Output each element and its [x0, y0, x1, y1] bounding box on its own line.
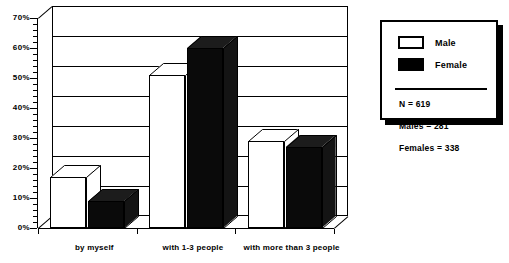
y-axis-major-tick — [30, 108, 37, 109]
bar-front-face — [187, 48, 223, 228]
y-axis-major-tick — [30, 48, 37, 49]
legend-label-female: Female — [435, 60, 467, 70]
y-axis-major-tick — [30, 198, 37, 199]
y-axis-tick-label: 70% — [0, 14, 30, 22]
y-axis-tick-label: 10% — [0, 194, 30, 202]
bar-male-group-2 — [248, 141, 284, 228]
stat-females: Females = 338 — [399, 143, 460, 153]
bar-side-outline — [124, 189, 140, 230]
stat-males: Males = 281 — [399, 121, 449, 131]
y-axis-tick-label: 50% — [0, 74, 30, 82]
bar-front-face — [286, 147, 322, 228]
bar-female-group-0 — [88, 201, 124, 228]
y-axis-major-tick — [30, 168, 37, 169]
bar-female-group-1 — [187, 48, 223, 228]
chart-container: 0%10%20%30%40%50%60%70% by myselfwith 1-… — [0, 0, 509, 263]
bar-side-outline — [223, 36, 239, 230]
x-axis-category-label: with more than 3 people — [212, 243, 372, 252]
y-axis-tick-label: 20% — [0, 164, 30, 172]
bar-front-face — [248, 141, 284, 228]
y-axis-major-tick — [30, 78, 37, 79]
legend-box: Male Female N = 619 Males = 281 Females … — [380, 20, 498, 120]
x-axis-tick — [38, 229, 39, 234]
bar-front-face — [149, 75, 185, 228]
bar-male-group-0 — [50, 177, 86, 228]
y-axis-major-tick — [30, 138, 37, 139]
legend-label-male: Male — [435, 38, 456, 48]
y-axis-tick-label: 60% — [0, 44, 30, 52]
y-axis-major-tick — [30, 18, 37, 19]
y-axis-tick-label: 40% — [0, 104, 30, 112]
y-axis-major-tick — [30, 228, 37, 229]
y-axis-tick-label: 30% — [0, 134, 30, 142]
legend-item-female: Female — [398, 58, 467, 71]
bar-front-face — [88, 201, 124, 228]
bar-front-face — [50, 177, 86, 228]
y-axis-line — [37, 18, 38, 228]
legend-divider — [395, 88, 487, 90]
bar-male-group-1 — [149, 75, 185, 228]
legend-swatch-male — [398, 36, 424, 49]
bar-female-group-2 — [286, 147, 322, 228]
legend-swatch-female — [398, 58, 424, 71]
stat-total: N = 619 — [399, 99, 430, 109]
bar-side-outline — [322, 135, 338, 230]
plot-edge-top-left — [38, 6, 53, 19]
legend-item-male: Male — [398, 36, 456, 49]
y-axis-tick-label: 0% — [0, 224, 30, 232]
